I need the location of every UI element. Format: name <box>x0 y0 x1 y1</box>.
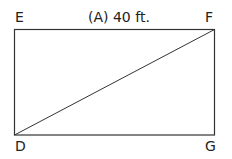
vertex-label-G: G <box>205 139 216 153</box>
vertex-label-E: E <box>15 10 24 24</box>
diagonal-DF <box>15 30 215 136</box>
vertex-label-F: F <box>205 10 213 24</box>
side-label-top: (A) 40 ft. <box>88 10 150 24</box>
vertex-label-D: D <box>15 139 26 153</box>
